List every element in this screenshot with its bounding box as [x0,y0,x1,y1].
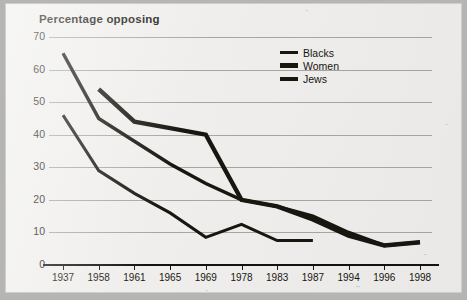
x-axis-tick-label: 1937 [43,272,83,283]
y-axis-tick-label: 60 [21,63,45,75]
legend-swatch-icon [280,51,298,55]
y-axis-tick-label: 40 [21,128,45,140]
x-axis-tick [170,266,171,270]
x-axis-tick [313,266,314,270]
scan-artifact [206,290,208,291]
legend-item-women: Women [280,59,339,72]
x-axis-tick-label: 1983 [257,272,297,283]
x-axis-tick [384,266,385,270]
x-axis-tick-label: 1996 [364,272,404,283]
page-title: Percentage opposing [39,13,160,25]
scan-artifact [66,280,68,281]
x-axis-tick-label: 1961 [114,272,154,283]
plot-area [49,37,432,265]
x-axis-ticks [49,266,432,271]
series-line-women [99,89,420,245]
x-axis-tick [242,266,243,270]
x-axis-labels: 1937195819611965196919781983198719941996… [49,272,432,290]
x-axis-tick [349,266,350,270]
series-line-jews [63,115,313,240]
x-axis-tick-label: 1969 [186,272,226,283]
legend-swatch-icon [280,77,298,81]
y-axis-labels: 010203040506070 [19,37,45,265]
scan-artifact [306,10,308,11]
y-axis-tick-label: 30 [21,160,45,172]
scan-artifact [446,124,448,125]
legend-label: Jews [303,73,327,85]
x-axis-tick [134,266,135,270]
y-axis-tick-label: 0 [21,258,45,270]
legend-swatch-icon [280,63,298,68]
x-axis-tick [63,266,64,270]
x-axis-tick-label: 1987 [293,272,333,283]
series-line-blacks [63,53,420,245]
y-axis-tick-label: 10 [21,225,45,237]
y-axis-tick-label: 50 [21,95,45,107]
y-axis-tick-label: 20 [21,193,45,205]
series-lines [49,37,432,265]
legend-label: Women [303,60,339,72]
x-axis-tick-label: 1994 [329,272,369,283]
x-axis-tick-label: 1998 [400,272,440,283]
x-axis-tick [99,266,100,270]
legend-label: Blacks [303,47,334,59]
x-axis-tick-label: 1978 [222,272,262,283]
page-background: Percentage opposing 010203040506070 1937… [0,0,467,300]
x-axis-tick-label: 1965 [150,272,190,283]
legend: BlacksWomenJews [280,46,339,85]
scan-artifact [424,254,427,255]
x-axis-tick [277,266,278,270]
legend-item-jews: Jews [280,72,339,85]
scan-artifact [356,286,360,287]
y-axis-tick-label: 70 [21,30,45,42]
x-axis-tick [420,266,421,270]
x-axis-tick [206,266,207,270]
x-axis-tick-label: 1958 [79,272,119,283]
legend-item-blacks: Blacks [280,46,339,59]
chart-card: Percentage opposing 010203040506070 1937… [5,3,462,293]
